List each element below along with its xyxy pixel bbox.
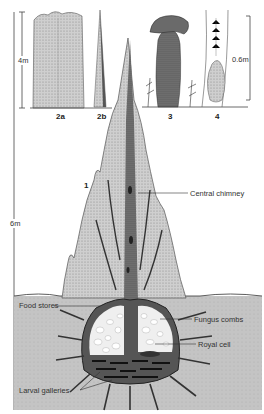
scale-label-6m: 6m — [10, 219, 20, 228]
nest-chamber — [82, 299, 180, 384]
label-central-chimney: Central chimney — [190, 189, 244, 198]
figure-label-3: 3 — [168, 112, 172, 121]
termite-mound-illustration — [0, 0, 264, 414]
mound-2a — [33, 12, 84, 108]
figure-label-4: 4 — [215, 112, 219, 121]
figure-label-2a: 2a — [56, 112, 65, 121]
scale-label-0-6m: 0.6m — [232, 55, 249, 64]
mound-4 — [202, 10, 228, 107]
mound-3 — [146, 16, 196, 107]
figure-label-2b: 2b — [97, 112, 106, 121]
figure-label-1: 1 — [84, 181, 88, 190]
label-food-stores: Food stores — [19, 301, 59, 310]
label-larval-galleries: Larval galleries — [19, 386, 69, 395]
label-royal-cell: Royal cell — [198, 340, 231, 349]
label-fungus-combs: Fungus combs — [194, 315, 243, 324]
scale-label-4m: 4m — [18, 56, 28, 65]
royal-cell — [140, 351, 160, 357]
